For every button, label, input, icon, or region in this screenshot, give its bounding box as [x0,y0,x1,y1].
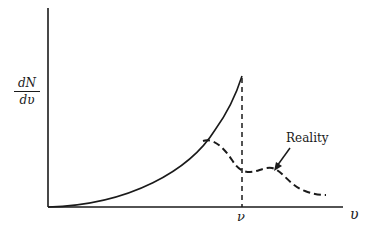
annotation-arrow [277,148,290,166]
y-axis-label-denominator: dυ [14,92,40,107]
theoretical-curve [48,76,242,207]
x-axis-label: υ [350,206,359,222]
cutoff-marker-label: ν [237,209,245,224]
y-axis-label: dN dυ [14,76,40,107]
diagram-canvas [0,0,378,235]
reality-annotation: Reality [286,131,329,145]
y-axis-label-numerator: dN [14,76,40,92]
reality-curve [203,140,326,195]
